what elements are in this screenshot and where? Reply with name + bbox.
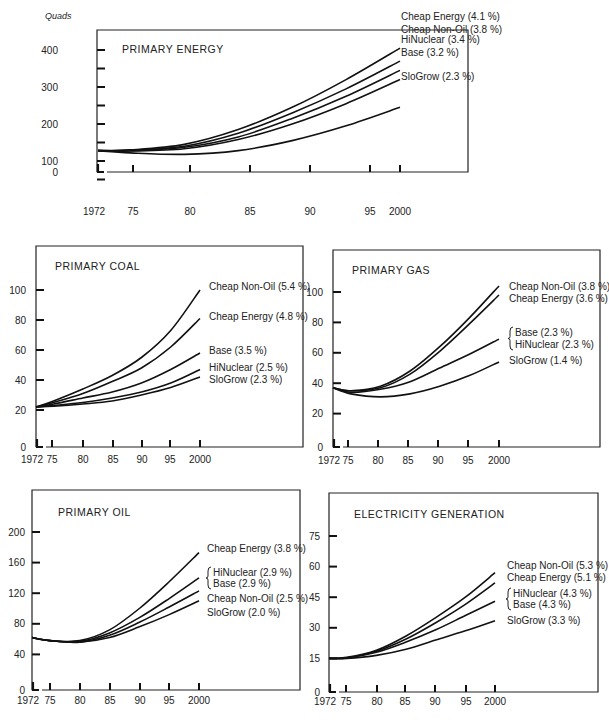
y-tick-label: 15 xyxy=(309,653,321,664)
series-label: Cheap Energy (5.1 %) xyxy=(507,572,606,583)
x-tick-label: 75 xyxy=(127,206,139,217)
x-tick-label: 80 xyxy=(371,696,383,707)
series-label: Cheap Energy (3.6 %) xyxy=(509,293,608,304)
chart-title: PRIMARY GAS xyxy=(352,264,430,276)
x-tick-label: 95 xyxy=(163,695,175,706)
series-label: HiNuclear (4.3 %) xyxy=(513,588,592,599)
series-label: Base (3.5 %) xyxy=(209,345,267,356)
x-tick-label: 75 xyxy=(342,455,354,466)
chart-title: PRIMARY OIL xyxy=(58,506,131,518)
chart-canvas: QuadsPRIMARY ENERGY010020030040019727580… xyxy=(0,0,609,726)
brace-icon xyxy=(206,567,211,589)
y-tick-label: 80 xyxy=(15,315,27,326)
x-tick-label: 75 xyxy=(340,696,352,707)
x-tick-label: 80 xyxy=(74,695,86,706)
y-tick-label: 60 xyxy=(15,345,27,356)
series-line xyxy=(32,601,199,642)
y-tick-label: 60 xyxy=(312,347,324,358)
x-tick-label: 85 xyxy=(107,454,119,465)
series-line xyxy=(333,286,499,391)
series-line xyxy=(329,573,495,659)
y-tick-label: 0 xyxy=(317,442,323,453)
x-tick-label: 90 xyxy=(304,206,316,217)
series-label: HiNuclear (3.4 %) xyxy=(401,34,480,45)
x-tick-label: 2000 xyxy=(188,695,211,706)
series-label: SloGrow (2.0 %) xyxy=(207,607,280,618)
series-label: SloGrow (2.3 %) xyxy=(209,374,282,385)
x-tick-label: 85 xyxy=(402,455,414,466)
y-tick-label: 40 xyxy=(14,649,26,660)
series-label: Cheap Non-Oil (5.4 %) xyxy=(209,281,310,292)
x-tick-label: 75 xyxy=(46,454,58,465)
x-tick-label: 1972 xyxy=(83,206,106,217)
y-tick-label: 75 xyxy=(309,531,321,542)
y-tick-label: 0 xyxy=(19,685,25,696)
series-label: Base (2.3 %) xyxy=(515,327,573,338)
origin-marker xyxy=(334,439,340,447)
series-label: SloGrow (3.3 %) xyxy=(507,615,580,626)
x-tick-label: 85 xyxy=(104,695,116,706)
series-line xyxy=(333,295,499,391)
x-tick-label: 1972 xyxy=(318,455,341,466)
x-tick-label: 95 xyxy=(164,454,176,465)
x-tick-label: 90 xyxy=(134,695,146,706)
series-label: SloGrow (2.3 %) xyxy=(401,71,474,82)
chart-title: PRIMARY COAL xyxy=(55,260,140,272)
x-tick-label: 75 xyxy=(44,695,56,706)
y-tick-label: 40 xyxy=(312,378,324,389)
series-line xyxy=(98,70,400,151)
chart-title: PRIMARY ENERGY xyxy=(122,43,224,55)
origin-marker xyxy=(98,164,104,172)
x-tick-label: 85 xyxy=(399,696,411,707)
series-label: Cheap Energy (3.8 %) xyxy=(207,543,306,554)
x-tick-label: 2000 xyxy=(488,455,511,466)
y-tick-label: 0 xyxy=(20,442,26,453)
series-label: Base (4.3 %) xyxy=(513,599,571,610)
series-line xyxy=(32,591,199,643)
x-tick-label: 95 xyxy=(364,206,376,217)
y-tick-label: 300 xyxy=(41,82,58,93)
y-tick-label: 45 xyxy=(309,592,321,603)
series-line xyxy=(333,339,499,392)
y-tick-label: 60 xyxy=(309,561,321,572)
series-line xyxy=(98,107,400,154)
y-tick-label: 30 xyxy=(309,622,321,633)
series-label: Cheap Non-Oil (3.8 %) xyxy=(509,281,609,292)
y-tick-label: 0 xyxy=(52,167,58,178)
x-tick-label: 2000 xyxy=(189,454,212,465)
y-tick-label: 160 xyxy=(8,557,25,568)
x-tick-label: 80 xyxy=(372,455,384,466)
chart-title: ELECTRICITY GENERATION xyxy=(354,508,505,520)
x-tick-label: 90 xyxy=(429,696,441,707)
x-tick-label: 2000 xyxy=(484,696,507,707)
series-label: Cheap Energy (4.8 %) xyxy=(209,311,308,322)
brace-icon xyxy=(508,327,513,350)
series-line xyxy=(32,553,199,642)
brace-icon xyxy=(506,588,511,610)
x-tick-label: 95 xyxy=(462,455,474,466)
y-tick-label: 100 xyxy=(9,285,26,296)
series-line xyxy=(36,290,200,407)
origin-marker xyxy=(37,439,43,447)
y-tick-label: 200 xyxy=(8,527,25,538)
y-tick-label: 100 xyxy=(306,287,323,298)
origin-marker xyxy=(33,682,39,690)
series-label: SloGrow (1.4 %) xyxy=(509,355,582,366)
x-tick-label: 80 xyxy=(184,206,196,217)
y-tick-label: 40 xyxy=(15,375,27,386)
y-tick-label: 120 xyxy=(8,588,25,599)
series-label: Cheap Non-Oil (2.5 %) xyxy=(207,593,308,604)
x-tick-label: 80 xyxy=(77,454,89,465)
y-tick-label: 200 xyxy=(41,119,58,130)
x-tick-label: 1972 xyxy=(21,454,44,465)
x-tick-label: 1972 xyxy=(17,695,40,706)
y-tick-label: 80 xyxy=(312,317,324,328)
y-tick-label: 100 xyxy=(41,156,58,167)
y-unit-label: Quads xyxy=(45,11,72,21)
x-tick-label: 2000 xyxy=(389,206,412,217)
series-label: Base (3.2 %) xyxy=(401,47,459,58)
series-label: Cheap Non-Oil (5.3 %) xyxy=(507,560,608,571)
chart-frame xyxy=(32,490,300,690)
series-line xyxy=(36,370,200,408)
y-tick-label: 80 xyxy=(14,618,26,629)
